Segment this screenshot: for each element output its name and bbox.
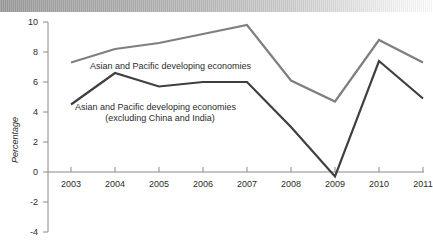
chart-page: 10 8 6 4 2 0 -2 -4 Percentage [0, 0, 433, 252]
y-tick-label: 6 [33, 77, 38, 87]
y-axis-title: Percentage [10, 117, 20, 163]
x-tick-label: 2008 [281, 179, 301, 189]
x-tick-label: 2010 [369, 179, 389, 189]
x-tick-label: 2011 [413, 179, 432, 189]
chart-canvas: 10 8 6 4 2 0 -2 -4 Percentage [0, 12, 433, 252]
x-tick-label: 2006 [193, 179, 213, 189]
y-tick-label: 0 [33, 167, 38, 177]
x-axis-ticks [71, 167, 423, 172]
line-chart: 10 8 6 4 2 0 -2 -4 Percentage [0, 12, 433, 252]
x-tick-label: 2005 [149, 179, 169, 189]
y-tick-label: 10 [28, 17, 38, 27]
series-annotation-excl-china-india-line2: (excluding China and India) [105, 113, 215, 123]
y-tick-label: 4 [33, 107, 38, 117]
scan-banner-texture [0, 0, 433, 12]
x-tick-label: 2009 [325, 179, 345, 189]
y-tick-label: -4 [30, 227, 38, 237]
y-tick-label: -2 [30, 197, 38, 207]
x-tick-label: 2003 [61, 179, 81, 189]
series-annotation-excl-china-india-line1: Asian and Pacific developing economies [75, 102, 237, 112]
scan-banner [0, 0, 433, 12]
x-tick-label: 2007 [237, 179, 257, 189]
y-tick-label: 2 [33, 137, 38, 147]
y-tick-label: 8 [33, 47, 38, 57]
x-tick-label: 2004 [105, 179, 125, 189]
y-axis-ticks [43, 22, 48, 232]
series-annotation-asian-pacific-developing: Asian and Pacific developing economies [90, 61, 252, 71]
